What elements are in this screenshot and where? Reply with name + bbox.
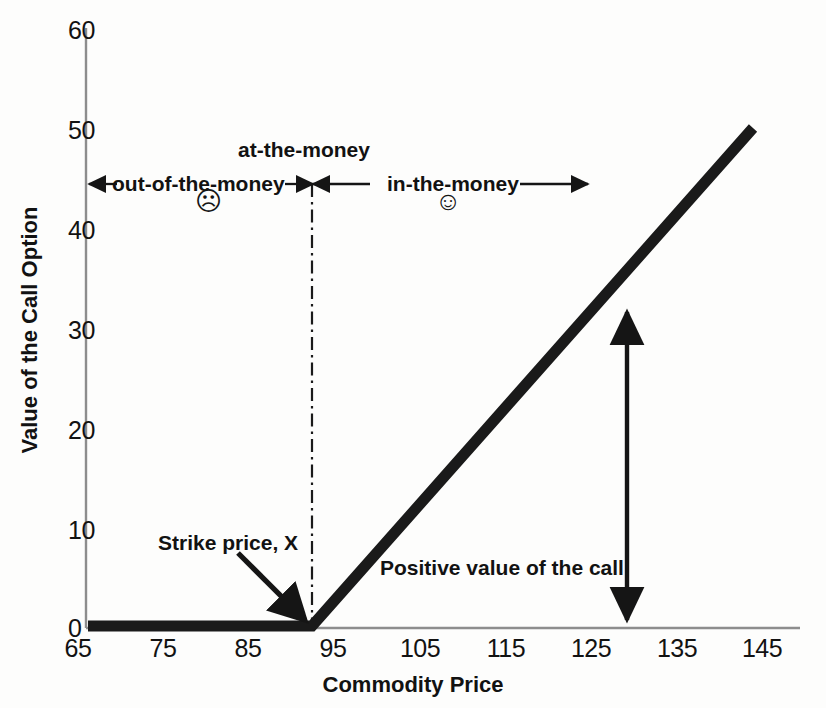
call-option-payoff-chart: 60 50 40 30 20 10 0 65 75 85 95 105 115 … (0, 0, 826, 708)
x-tick-label-85: 85 (235, 634, 262, 663)
y-tick-label-60: 60 (68, 16, 95, 45)
at-the-money-label: at-the-money (238, 138, 370, 162)
x-tick-label-125: 125 (571, 634, 611, 663)
strike-price-label: Strike price, X (158, 531, 298, 555)
y-tick-label-30: 30 (68, 316, 95, 345)
x-tick-label-115: 115 (487, 634, 525, 663)
x-tick-label-135: 135 (657, 634, 697, 663)
y-tick-label-50: 50 (68, 116, 95, 145)
y-axis-title: Value of the Call Option (17, 207, 43, 454)
x-tick-label-75: 75 (150, 634, 177, 663)
sad-face-icon: ☹ (195, 188, 222, 214)
x-tick-label-105: 105 (400, 634, 440, 663)
x-tick-label-65: 65 (65, 634, 92, 663)
x-axis-title: Commodity Price (323, 672, 504, 698)
plot-area (0, 0, 826, 708)
positive-value-label: Positive value of the call (380, 556, 624, 580)
strike-price-arrow (238, 553, 305, 620)
y-tick-label-20: 20 (68, 416, 95, 445)
happy-face-icon: ☺ (435, 188, 462, 214)
y-tick-label-10: 10 (68, 516, 95, 545)
x-tick-label-145: 145 (742, 634, 782, 663)
y-tick-label-40: 40 (68, 216, 95, 245)
x-tick-label-95: 95 (320, 634, 347, 663)
